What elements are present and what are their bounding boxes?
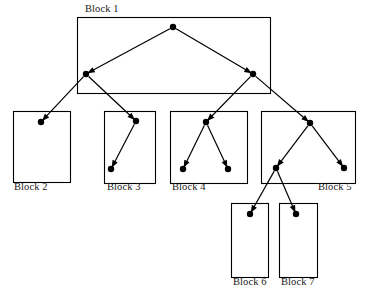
tree-node-n-b5a [307, 120, 313, 126]
edge-line-e-root-r [176, 29, 252, 73]
block-label-block7: Block 7 [281, 276, 315, 287]
block-label-block2: Block 2 [14, 181, 48, 192]
tree-node-n-b3b [108, 166, 114, 172]
tree-node-n-r [250, 71, 256, 77]
diagram-canvas [0, 0, 367, 301]
tree-node-n-b4c [225, 166, 231, 172]
edge-line-e-root-l [87, 29, 170, 74]
block-label-block1: Block 1 [85, 3, 119, 14]
edge-line-e-r-b5a [256, 76, 309, 122]
tree-node-n-b5b [273, 165, 279, 171]
block-tree-diagram: Block 1Block 2Block 3Block 4Block 5Block… [0, 0, 367, 301]
tree-node-n-b5c [341, 165, 347, 171]
tree-node-n-b6 [247, 211, 253, 217]
edge-line-e-l-b2 [42, 77, 84, 121]
edge-line-e-r-b4a [207, 77, 250, 121]
block-label-block5: Block 5 [318, 181, 352, 192]
block-label-block3: Block 3 [107, 181, 141, 192]
tree-node-n-b3a [133, 118, 139, 124]
edge-line-e-b5a-b5b [277, 126, 308, 167]
block-label-block4: Block 4 [172, 181, 206, 192]
tree-node-n-root [170, 24, 176, 30]
tree-node-n-b2 [38, 119, 44, 125]
tree-node-n-l [83, 71, 89, 77]
tree-node-n-b4b [180, 166, 186, 172]
edge-line-e-b5a-b5c [312, 126, 343, 167]
tree-node-n-b4a [203, 119, 209, 125]
block-box-block3 [105, 112, 156, 184]
block-boxes-layer [14, 18, 356, 278]
block-label-block6: Block 6 [233, 276, 267, 287]
tree-node-n-b7 [293, 211, 299, 217]
edge-line-e-l-b3a [89, 76, 135, 120]
